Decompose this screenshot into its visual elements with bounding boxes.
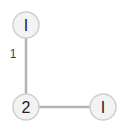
node-top: I xyxy=(13,12,39,38)
edge-label-top-mid: 1 xyxy=(10,47,17,61)
node-mid: 2 xyxy=(13,94,39,120)
node-right: I xyxy=(90,94,116,120)
node-mid-label: 2 xyxy=(22,99,31,116)
node-top-label: I xyxy=(24,17,28,34)
graph-diagram: 1 I 2 I xyxy=(0,0,132,132)
node-right-label: I xyxy=(101,99,105,116)
